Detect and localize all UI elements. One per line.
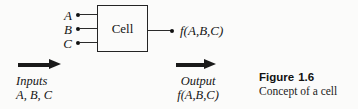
output-flow-values: f(A,B,C)	[170, 88, 226, 102]
input-label-c: C	[56, 37, 72, 50]
figure-caption-title: Figure1.6	[259, 71, 357, 84]
arrow-shaft	[18, 63, 49, 67]
output-terminal-dot	[170, 29, 174, 33]
input-label-a: A	[56, 9, 72, 22]
figure-caption-number: 1.6	[298, 71, 314, 83]
output-wire	[148, 30, 172, 31]
figure-caption-description: Concept of a cell	[259, 85, 357, 98]
figure-caption: Figure1.6 Concept of a cell	[259, 71, 357, 98]
cell-block: Cell	[97, 5, 148, 52]
inputs-flow-caption: Inputs A, B, C	[16, 74, 52, 102]
inputs-flow-title: Inputs	[16, 74, 47, 88]
figure-caption-word: Figure	[259, 71, 294, 83]
input-label-b: B	[56, 23, 72, 36]
arrow-head	[49, 59, 61, 69]
input-wire-a	[79, 14, 98, 15]
cell-block-label: Cell	[112, 21, 134, 37]
output-expression: f(A,B,C)	[180, 23, 223, 39]
output-flow-caption: Output f(A,B,C)	[170, 74, 226, 102]
inputs-right-arrow-icon	[18, 59, 61, 70]
arrow-head	[204, 59, 216, 69]
input-wire-b	[79, 28, 98, 29]
figure-cell-concept: A B C Cell f(A,B,C) Inputs A, B, C Outpu…	[0, 0, 358, 109]
inputs-flow-values: A, B, C	[16, 88, 52, 102]
input-wire-c	[79, 42, 98, 43]
output-right-arrow-icon	[176, 59, 216, 70]
arrow-shaft	[176, 63, 204, 67]
output-flow-title: Output	[181, 74, 216, 88]
